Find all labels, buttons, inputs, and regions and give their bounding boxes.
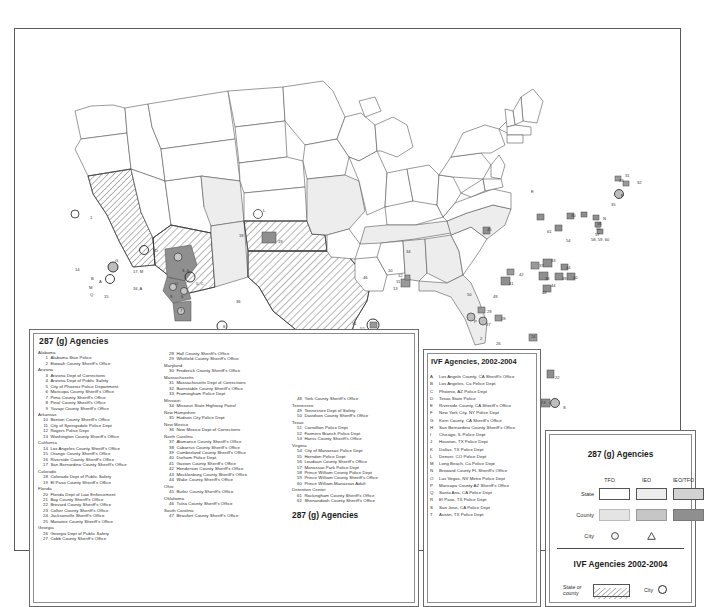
- map-label: O: [175, 282, 178, 287]
- agency-list-item: 36New Mexico Dept of Corrections: [163, 427, 291, 432]
- map-label: D: [155, 249, 158, 254]
- ivf-list-item: KDallas, TX Police Dept: [430, 446, 536, 453]
- agency-number: 35: [167, 415, 174, 420]
- ivf-agency-name: Santa Ana, CA Police Dept: [439, 489, 536, 496]
- map-label: 19: [278, 240, 283, 245]
- agency-number: 19: [41, 480, 48, 485]
- map-label: 61: [547, 230, 552, 235]
- map-label: 39: [562, 277, 567, 282]
- ivf-letter: B: [430, 380, 436, 387]
- ivf-list-item: BLos Angeles, Ca Police Dept: [430, 380, 536, 387]
- triangle-icon: [636, 527, 667, 545]
- agency-name: Etowah County Sheriff's Office: [50, 361, 163, 366]
- map-label: 43: [551, 259, 556, 264]
- legend-panel-symbols: 287 (g) Agencies TFO IEO IEO/TFO State: [545, 430, 696, 607]
- map-label: 48: [542, 291, 547, 296]
- agency-list-item: 48York County Sheriff's Office: [291, 396, 413, 401]
- ivf-list-item: GKern County, CA Sheriff's Office: [430, 417, 536, 424]
- agency-list-item: 2Etowah County Sheriff's Office: [37, 361, 163, 366]
- ivf-letter: E: [430, 402, 436, 409]
- map-label: 2: [480, 337, 482, 342]
- agency-name: New Mexico Dept of Corrections: [176, 427, 291, 432]
- map-label: 5, C: [196, 282, 204, 287]
- map-label: B: [91, 277, 94, 282]
- agency-name: Harris County Sheriff's Office: [304, 436, 413, 441]
- agency-list-item: 27Cobb County Sheriff's Office: [37, 536, 163, 541]
- ivf-agency-name: Los Angele County, CA Sheriff's Office: [439, 373, 536, 380]
- map-label: 17, M: [133, 270, 143, 275]
- map-label: 32: [637, 181, 642, 186]
- map-label: 13: [393, 287, 398, 292]
- map-label: P: [474, 320, 477, 325]
- map-label: 9: [170, 295, 172, 300]
- map-label: 45: [487, 228, 492, 233]
- map-label: 11: [396, 280, 400, 285]
- agency-list-item: 17San Bernardino County Sheriff's Office: [37, 462, 163, 467]
- ivf-list-item: ERiverside County, CA Sheriff's Office: [430, 402, 536, 409]
- symbol-legend-header-row: TFO IEO IEO/TFO: [560, 471, 687, 483]
- ivf-letter: A: [430, 373, 436, 380]
- ivf-letter: I: [430, 431, 436, 438]
- legend-columns: 287 (g) Agencies Alabama1Alabama Stae Po…: [37, 336, 413, 602]
- ivf-letter: M: [430, 460, 436, 467]
- agency-number: 13: [41, 434, 48, 439]
- agency-name: Manatee County Sheriff's Office: [50, 519, 163, 524]
- agency-number: 45: [167, 489, 174, 494]
- panel-footer-287g: 287 (g) Agencies: [292, 510, 413, 520]
- swatch-county-tfo: [599, 509, 630, 521]
- ivf-letter: Q: [430, 489, 436, 496]
- ivf-letter: H: [430, 424, 436, 431]
- agency-number: 44: [167, 477, 174, 482]
- ivf-letter: N: [430, 467, 436, 474]
- ivf-letter: T: [430, 511, 436, 518]
- legend-column-2: 28Hall County Sheriff's Office29Whitfiel…: [163, 336, 291, 602]
- ivf-body: IVF Agencies, 2002-2004 ALos Angele Coun…: [430, 357, 536, 602]
- map-label: G: [115, 259, 118, 264]
- row-label-city: City: [560, 533, 599, 539]
- map-label: 14: [75, 268, 80, 273]
- agency-name: Whitfield County Sheriff's Office: [176, 356, 291, 361]
- ivf-list-item: TAustin, TX Police Dept: [430, 511, 536, 518]
- agency-list-item: 44Wake County Sheriff's Office: [163, 477, 291, 482]
- ivf-agency-name: Broward County FL Sheriff's Office: [439, 467, 536, 474]
- ivf-agency-name: Riverside County, CA Sheriff's Office: [439, 402, 536, 409]
- map-label: 12: [398, 274, 403, 279]
- agency-name: Frederick County Sheriff's Office: [176, 368, 291, 373]
- agency-list-col3: 48York County Sheriff's OfficeTennessee4…: [291, 396, 413, 504]
- agency-name: Butler County Sheriff's Office: [176, 489, 291, 494]
- map-label: 24: [531, 335, 536, 340]
- map-label: N: [603, 217, 606, 222]
- agency-number: 30: [167, 368, 174, 373]
- circle-icon: [599, 527, 630, 545]
- agency-name: Shenandoah County Sheriff's Office: [304, 498, 413, 503]
- map-label: 23: [541, 401, 546, 406]
- swatch-ivf-hatch: [593, 584, 630, 597]
- agency-name: Davidson County Sheriff's Office: [304, 413, 413, 418]
- agency-name: Tulsa County Sheriff's Office: [176, 501, 291, 506]
- agency-list-item: 53Harris County Sheriff's Office: [291, 436, 413, 441]
- ivf-list-item: DTexas State Police: [430, 395, 536, 402]
- panel-title-ivf: IVF Agencies, 2002-2004: [431, 357, 536, 366]
- map-label: 50: [467, 293, 472, 298]
- map-label: 44: [551, 284, 556, 289]
- legend-column-3: 48York County Sheriff's OfficeTennessee4…: [291, 336, 413, 602]
- ivf-list-item: PMaricopa County AZ Sheriff's Office: [430, 482, 536, 489]
- ivf-agency-name: Long Beach, Ca Police Dept: [439, 460, 536, 467]
- map-label: 1: [90, 216, 92, 221]
- map-label: F: [621, 194, 624, 199]
- swatch-county-ieo: [636, 509, 667, 521]
- map-label: M: [89, 286, 92, 291]
- agency-name: Cobb County Sheriff's Office: [50, 536, 163, 541]
- agency-number: 46: [167, 501, 174, 506]
- symbol-row-city: City: [560, 525, 687, 546]
- map-label: 46: [363, 276, 368, 281]
- ivf-agency-name: Houston, TX Police Dept: [439, 438, 536, 445]
- ivf-city-label: City: [644, 587, 653, 593]
- legend-panel-287g: 287 (g) Agencies Alabama1Alabama Stae Po…: [29, 329, 419, 607]
- col-header-ieo: IEO: [631, 477, 662, 483]
- agency-number: 17: [41, 462, 48, 467]
- ivf-letter: J: [430, 438, 436, 445]
- map-label: 40: [573, 276, 578, 281]
- legend-divider: [557, 548, 684, 549]
